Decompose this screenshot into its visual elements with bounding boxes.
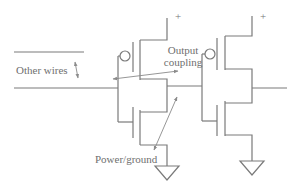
inverter-2 xyxy=(202,16,287,175)
output-coupling-label: Output coupling xyxy=(158,44,208,68)
power-ground-arrow xyxy=(154,97,177,150)
power-ground-label: Power/ground xyxy=(95,153,157,165)
ground-icon xyxy=(155,166,179,180)
output-coupling-line1: Output xyxy=(158,44,208,56)
ground-icon xyxy=(240,161,264,175)
supply-plus-label-1: + xyxy=(175,10,181,22)
supply-plus-label-2: + xyxy=(260,10,266,22)
other-wires-label: Other wires xyxy=(16,64,68,76)
pmos-bubble-icon xyxy=(120,51,130,61)
output-coupling-line2: coupling xyxy=(158,56,208,68)
other-wires-arrow xyxy=(75,62,78,78)
output-coupling-arrow xyxy=(113,71,178,79)
